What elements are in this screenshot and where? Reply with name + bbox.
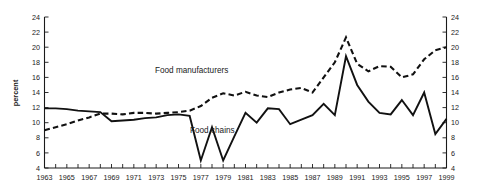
y-tick-label-right: 22 bbox=[451, 28, 459, 37]
y-tick-label-right: 12 bbox=[451, 103, 459, 112]
x-tick-label: 1985 bbox=[282, 173, 298, 182]
x-tick-label: 1965 bbox=[59, 173, 75, 182]
y-tick-label: 22 bbox=[32, 28, 40, 37]
x-tick-label: 1963 bbox=[37, 173, 53, 182]
y-tick-label: 4 bbox=[36, 164, 40, 173]
x-tick-label: 1973 bbox=[148, 173, 164, 182]
y-tick-label-right: 14 bbox=[451, 88, 459, 97]
y-tick-label-right: 6 bbox=[451, 149, 455, 158]
y-tick-label-right: 24 bbox=[451, 13, 459, 22]
line-chart: 4681012141618202224 4681012141618202224 … bbox=[0, 0, 491, 193]
y-tick-label: 10 bbox=[32, 118, 40, 127]
series-line-food-chains bbox=[45, 56, 447, 160]
x-tick-label: 1969 bbox=[104, 173, 120, 182]
y-tick-label-right: 10 bbox=[451, 118, 459, 127]
series-label-food-chains: Food chains bbox=[190, 126, 235, 135]
x-tick-label: 1991 bbox=[349, 173, 365, 182]
y-tick-label: 18 bbox=[32, 58, 40, 67]
y-tick-label: 16 bbox=[32, 73, 40, 82]
x-tick-label: 1979 bbox=[215, 173, 231, 182]
y-tick-label: 8 bbox=[36, 133, 40, 142]
y-tick-label-right: 18 bbox=[451, 58, 459, 67]
x-tick-label: 1983 bbox=[260, 173, 276, 182]
y-tick-label: 6 bbox=[36, 149, 40, 158]
y-tick-label: 24 bbox=[32, 13, 40, 22]
y-tick-label: 12 bbox=[32, 103, 40, 112]
y-axis-label: percent bbox=[11, 79, 20, 106]
x-axis: 1963196519671969197119731975197719791981… bbox=[37, 164, 455, 182]
y-tick-label-right: 8 bbox=[451, 133, 455, 142]
x-tick-label: 1999 bbox=[439, 173, 455, 182]
y-axis-left: 4681012141618202224 bbox=[32, 13, 49, 173]
x-tick-label: 1995 bbox=[394, 173, 410, 182]
y-tick-label: 14 bbox=[32, 88, 40, 97]
x-tick-label: 1981 bbox=[238, 173, 254, 182]
y-tick-label-right: 16 bbox=[451, 73, 459, 82]
series-label-food-manufacturers: Food manufacturers bbox=[155, 66, 228, 75]
x-tick-label: 1975 bbox=[171, 173, 187, 182]
y-tick-label: 20 bbox=[32, 43, 40, 52]
x-tick-label: 1977 bbox=[193, 173, 209, 182]
x-tick-label: 1989 bbox=[327, 173, 343, 182]
x-tick-label: 1997 bbox=[416, 173, 432, 182]
x-tick-label: 1987 bbox=[305, 173, 321, 182]
x-tick-label: 1993 bbox=[372, 173, 388, 182]
x-tick-label: 1971 bbox=[126, 173, 142, 182]
y-tick-label-right: 4 bbox=[451, 164, 455, 173]
y-tick-label-right: 20 bbox=[451, 43, 459, 52]
x-tick-label: 1967 bbox=[81, 173, 97, 182]
chart-container: 4681012141618202224 4681012141618202224 … bbox=[0, 0, 491, 193]
y-axis-right: 4681012141618202224 bbox=[443, 13, 460, 173]
